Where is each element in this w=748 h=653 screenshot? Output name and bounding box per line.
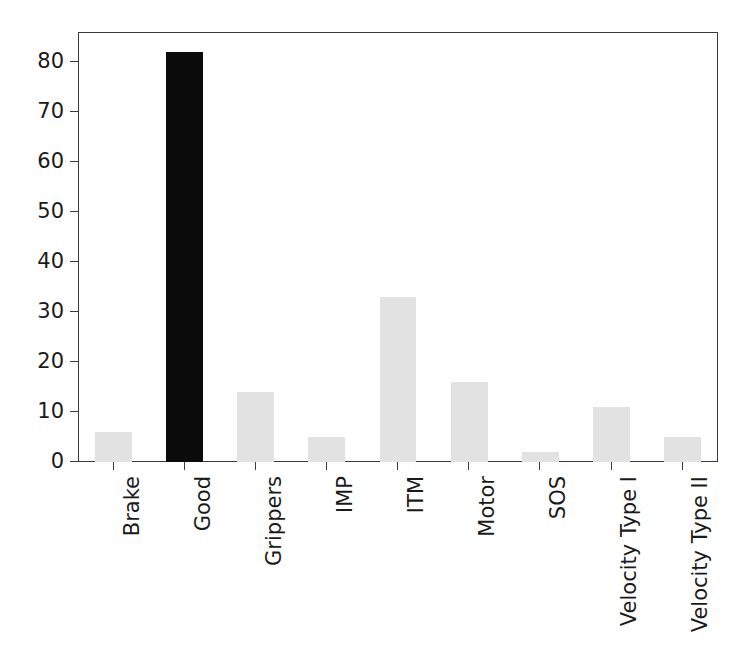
y-axis-tick-mark — [70, 461, 78, 462]
x-axis-tick-label: ITM — [406, 476, 427, 513]
y-axis-tick-label: 20 — [37, 351, 64, 372]
x-axis-tick-mark — [682, 462, 683, 470]
y-axis-tick-label: 40 — [37, 251, 64, 272]
y-axis-tick-mark — [70, 311, 78, 312]
x-axis-tick-label: Velocity Type II — [690, 476, 711, 632]
y-axis-tick-mark — [70, 111, 78, 112]
bar-motor — [451, 382, 488, 462]
y-axis-tick-label: 50 — [37, 201, 64, 222]
y-axis-tick-mark — [70, 261, 78, 262]
x-axis-tick-mark — [113, 462, 114, 470]
x-axis-tick-mark — [326, 462, 327, 470]
bar-good — [166, 52, 203, 462]
y-axis-tick-mark — [70, 361, 78, 362]
x-axis-tick-mark — [468, 462, 469, 470]
bar-velocity-type-i — [593, 407, 630, 462]
x-axis-tick-label: Good — [193, 476, 214, 531]
y-axis-tick-mark — [70, 161, 78, 162]
bar-itm — [380, 297, 417, 462]
x-axis-tick-label: Brake — [122, 476, 143, 536]
x-axis-tick-label: Motor — [477, 476, 498, 537]
bar-grippers — [237, 392, 274, 462]
x-axis-tick-mark — [397, 462, 398, 470]
x-axis-tick-label: Grippers — [264, 476, 285, 566]
x-axis-tick-mark — [184, 462, 185, 470]
bar-chart-figure: 01020304050607080 BrakeGoodGrippersIMPIT… — [0, 0, 748, 653]
bar-brake — [95, 432, 132, 462]
y-axis-tick-label: 70 — [37, 101, 64, 122]
y-axis-tick-label: 0 — [51, 451, 64, 472]
bar-sos — [522, 452, 559, 462]
x-axis-tick-mark — [611, 462, 612, 470]
y-axis-tick-label: 80 — [37, 51, 64, 72]
bar-velocity-type-ii — [664, 437, 701, 462]
y-axis-tick-label: 60 — [37, 151, 64, 172]
y-axis-tick-label: 30 — [37, 301, 64, 322]
y-axis-tick-mark — [70, 211, 78, 212]
x-axis-tick-label: SOS — [548, 476, 569, 519]
y-axis-tick-mark — [70, 411, 78, 412]
y-axis-tick-label: 10 — [37, 401, 64, 422]
x-axis-tick-mark — [255, 462, 256, 470]
x-axis-tick-label: IMP — [335, 476, 356, 513]
x-axis-tick-label: Velocity Type I — [619, 476, 640, 626]
x-axis-tick-mark — [539, 462, 540, 470]
bars-layer — [78, 32, 718, 462]
bar-imp — [308, 437, 345, 462]
y-axis-tick-mark — [70, 61, 78, 62]
